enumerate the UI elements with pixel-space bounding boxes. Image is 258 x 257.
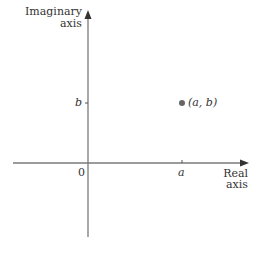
origin-label: 0 [78, 167, 85, 178]
y-axis-label: Imaginary axis [14, 6, 82, 30]
complex-plane-diagram [0, 0, 258, 257]
y-tick-label: b [75, 97, 82, 108]
point-a-b [179, 100, 185, 106]
real-axis-arrow-icon [240, 160, 249, 167]
imaginary-axis-arrow-icon [85, 10, 92, 19]
point-label: (a, b) [188, 97, 217, 108]
x-tick-label: a [178, 167, 185, 178]
x-axis-label: Real axis [214, 168, 248, 190]
